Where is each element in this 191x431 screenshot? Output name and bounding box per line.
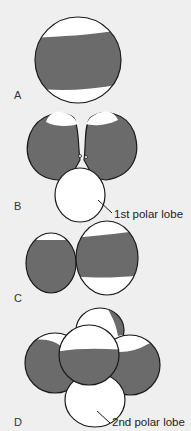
panel-label-a: A bbox=[14, 89, 21, 101]
panel-label-d: D bbox=[14, 416, 22, 428]
panel-b bbox=[27, 111, 136, 222]
panel-c bbox=[20, 221, 145, 300]
panel-d bbox=[25, 306, 160, 427]
first-polar-lobe-label: 1st polar lobe bbox=[114, 208, 183, 220]
second-polar-lobe-label: 2nd polar lobe bbox=[112, 416, 185, 428]
panel-a bbox=[30, 17, 130, 103]
panel-label-c: C bbox=[14, 292, 22, 304]
panel-label-b: B bbox=[14, 200, 21, 212]
